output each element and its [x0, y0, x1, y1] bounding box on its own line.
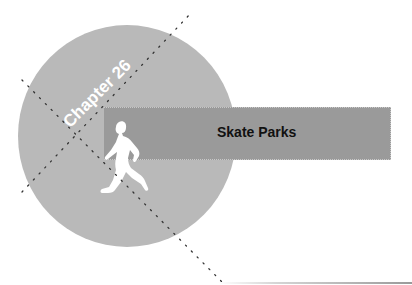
bottom-rule [218, 282, 412, 284]
section-title: Skate Parks [217, 124, 296, 140]
runner-silhouette-icon [99, 120, 155, 198]
chapter-title-page: Skate Parks Chapter 26 [0, 0, 412, 285]
